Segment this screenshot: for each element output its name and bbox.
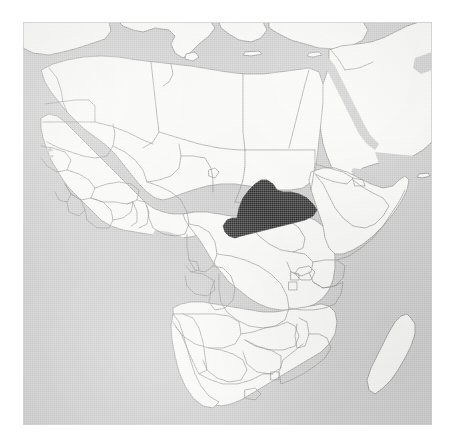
mask-top <box>23 22 432 23</box>
locator-map-page: .land { fill: #f7f7f5; stroke: #8a8a8a; … <box>0 0 456 448</box>
mask-bottom <box>23 424 432 425</box>
map-frame: .land { fill: #f7f7f5; stroke: #8a8a8a; … <box>23 22 432 425</box>
africa-locator-map: .land { fill: #f7f7f5; stroke: #8a8a8a; … <box>23 22 432 425</box>
